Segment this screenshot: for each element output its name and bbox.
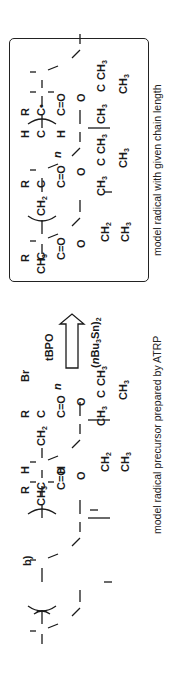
atom-ch2-backbone: CH2 bbox=[36, 426, 48, 446]
atom-c: C bbox=[36, 180, 47, 188]
caption-model-radical: model radical with given chain length bbox=[152, 84, 163, 256]
atom-c-carbonyl: C=O bbox=[56, 93, 67, 116]
atom-ch3: CH3 bbox=[96, 406, 108, 426]
reagent-hexabutylditin: (nBu3Sn)2 bbox=[90, 317, 102, 368]
atom-ch3: CH3 bbox=[118, 74, 130, 94]
atom-o: O bbox=[76, 93, 87, 102]
panel-label: b) bbox=[22, 556, 33, 566]
atom-o: O bbox=[76, 471, 87, 480]
atom-c-tbutyl: C bbox=[96, 84, 107, 92]
atom-br: Br bbox=[20, 370, 31, 382]
atom-ch3-ethyl: CH3 bbox=[120, 222, 132, 242]
atom-h: H bbox=[56, 130, 67, 138]
atom-r: R bbox=[20, 108, 31, 116]
reaction-scheme: b) tBPO (nBu3Sn)2 model radical precurso… bbox=[0, 0, 169, 686]
repeat-subscript-n: n bbox=[52, 383, 63, 390]
atom-r: R bbox=[20, 254, 31, 262]
atom-c-radical: C• bbox=[36, 104, 47, 116]
atom-ch3: CH3 bbox=[96, 176, 108, 196]
atom-c-tbutyl: C bbox=[96, 390, 107, 398]
repeat-subscript-n: n bbox=[52, 151, 63, 158]
atom-ch2-ethyl: CH2 bbox=[100, 452, 112, 472]
atom-c-carbonyl: C=O bbox=[56, 237, 67, 260]
atom-h: H bbox=[20, 466, 31, 474]
atom-c-carbonyl: C=O bbox=[56, 395, 67, 418]
atom-r: R bbox=[20, 486, 31, 494]
atom-c-carbonyl: C=O bbox=[56, 165, 67, 188]
atom-ch2-ethyl: CH2 bbox=[100, 222, 112, 242]
atom-c: C bbox=[36, 410, 47, 418]
atom-ch3: CH3 bbox=[118, 148, 130, 168]
atom-h: H bbox=[56, 466, 67, 474]
atom-c: C bbox=[36, 482, 47, 490]
atom-r: R bbox=[20, 410, 31, 418]
atom-o: O bbox=[76, 397, 87, 406]
atom-ch3: CH3 bbox=[118, 380, 130, 400]
caption-precursor: model radical precursor prepared by ATRP bbox=[152, 336, 163, 534]
atom-c: C bbox=[36, 252, 47, 260]
atom-h: H bbox=[20, 130, 31, 138]
reagent-tbpo: tBPO bbox=[44, 334, 55, 362]
atom-o: O bbox=[76, 239, 87, 248]
atom-ch3: CH3 bbox=[96, 366, 108, 386]
atom-ch3: CH3 bbox=[96, 104, 108, 124]
atom-r: R bbox=[20, 180, 31, 188]
atom-c-tbutyl: C bbox=[96, 158, 107, 166]
atom-ch2-backbone: CH2 bbox=[36, 196, 48, 216]
atom-o: O bbox=[76, 167, 87, 176]
atom-c: C bbox=[36, 130, 47, 138]
atom-ch3: CH3 bbox=[96, 60, 108, 80]
atom-ch3-ethyl: CH3 bbox=[120, 452, 132, 472]
atom-ch3: CH3 bbox=[96, 134, 108, 154]
